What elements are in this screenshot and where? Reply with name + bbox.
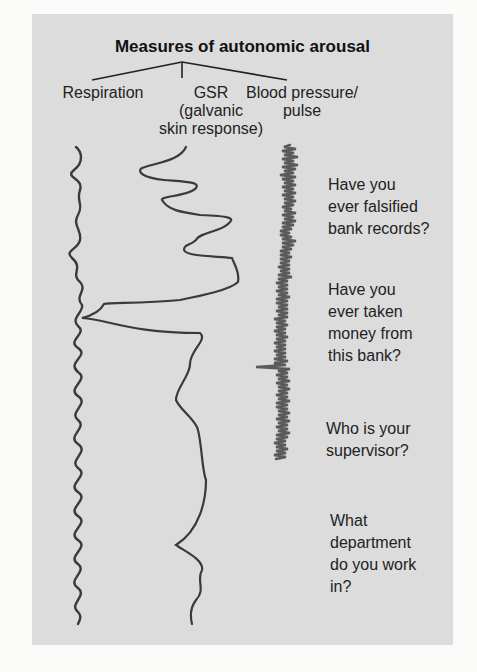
hierarchy-connector-lines — [92, 62, 287, 80]
traces-layer — [0, 0, 477, 672]
gsr-trace — [82, 147, 238, 624]
respiration-trace — [70, 147, 83, 624]
blood-pressure-pulse-trace — [256, 145, 298, 459]
